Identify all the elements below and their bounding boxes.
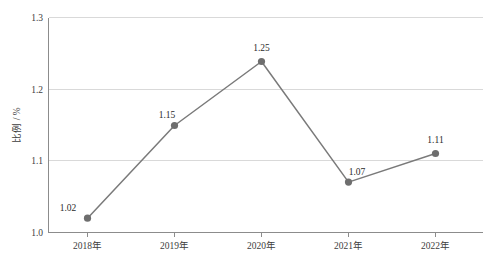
data-label-2018: 1.02 [60,203,77,213]
data-point-2020[interactable] [258,58,265,65]
data-label-2020: 1.25 [253,43,270,53]
data-label-2022: 1.11 [427,135,444,145]
x-tick-label-2021: 2021年 [334,240,363,251]
y-tick-label-1-0: 1.0 [31,228,43,238]
data-label-2021: 1.07 [349,167,366,177]
data-label-2019: 1.15 [159,110,176,120]
x-tick-labels: 2018年 2019年 2020年 2021年 2022年 [73,240,450,251]
x-tick-label-2019: 2019年 [160,240,189,251]
y-tick-label-1-2: 1.2 [31,85,43,95]
x-tick-label-2020: 2020年 [247,240,276,251]
y-tick-label-1-3: 1.3 [31,13,43,23]
series-markers [84,58,439,222]
x-tick-marks [88,233,436,237]
x-tick-label-2018: 2018年 [73,240,102,251]
data-point-2022[interactable] [432,150,439,157]
gridlines [49,18,483,161]
y-tick-labels: 1.3 1.2 1.1 1.0 [31,13,43,238]
line-chart-figure: 1.3 1.2 1.1 1.0 比例 / % 2018年 2019年 2020年… [0,0,497,264]
data-point-2021[interactable] [345,179,352,186]
data-point-2019[interactable] [171,122,178,129]
y-tick-label-1-1: 1.1 [31,156,43,166]
data-point-2018[interactable] [84,215,91,222]
series-line-bili [88,62,436,219]
chart-canvas: 1.3 1.2 1.1 1.0 比例 / % 2018年 2019年 2020年… [0,0,497,264]
y-axis-title: 比例 / % [11,107,22,142]
x-tick-label-2022: 2022年 [421,240,450,251]
